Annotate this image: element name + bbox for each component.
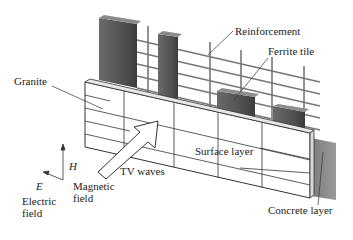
electric-field-label-line1: Electric	[22, 195, 56, 207]
e-symbol: E	[36, 180, 43, 192]
surface-layer-label: Surface layer	[195, 145, 253, 157]
electric-field-label-line2: field	[22, 207, 42, 219]
magnetic-field-label-line1: Magnetic	[73, 180, 115, 192]
reinforcement-leader	[208, 31, 233, 55]
reinforcement-label: Reinforcement	[235, 25, 300, 37]
tv-waves-label: TV waves	[120, 165, 165, 177]
granite-label: Granite	[14, 75, 47, 87]
h-symbol: H	[69, 160, 77, 172]
field-axes	[43, 144, 65, 180]
ferrite-tile-label: Ferrite tile	[268, 45, 314, 57]
magnetic-field-label-line2: field	[73, 192, 93, 204]
concrete-layer	[311, 138, 336, 200]
concrete-layer-label: Concrete layer	[268, 204, 332, 216]
